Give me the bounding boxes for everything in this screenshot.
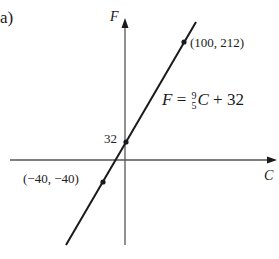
y-axis-label: F [110, 9, 119, 25]
point-label-neg40-neg40: (−40, −40) [23, 171, 79, 187]
x-axis-arrow-icon [267, 157, 277, 164]
equation-rest: + 32 [213, 90, 244, 109]
equation-var: C [197, 90, 208, 109]
fraction-denominator: 5 [191, 101, 196, 111]
point-intercept-32 [123, 139, 128, 144]
function-line [66, 22, 196, 245]
x-axis-label: C [264, 168, 273, 184]
point-label-100-212: (100, 212) [190, 35, 244, 51]
y-axis-arrow-icon [122, 18, 129, 28]
equation-equals: = [177, 90, 187, 109]
panel-label: a) [0, 8, 13, 28]
equation-fraction: 9 5 [191, 91, 196, 111]
point-neg40-neg40 [100, 179, 105, 184]
point-100-212 [181, 39, 186, 44]
equation-lhs: F [162, 90, 172, 109]
equation: F = 9 5 C + 32 [162, 90, 244, 111]
intercept-label: 32 [104, 131, 117, 147]
